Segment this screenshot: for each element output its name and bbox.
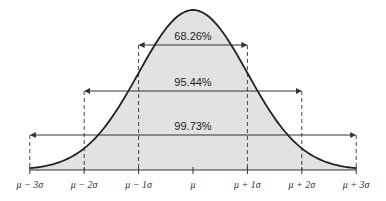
range-percent-label: 68.26%: [174, 30, 212, 42]
tick-label: μ − 1σ: [124, 179, 153, 190]
tick-label: μ + 1σ: [233, 179, 262, 190]
tick-label: μ − 3σ: [15, 179, 44, 190]
normal-distribution-chart: μ − 3σμ − 2σμ − 1σμμ + 1σμ + 2σμ + 3σ 68…: [0, 0, 386, 201]
range-percent-label: 99.73%: [174, 120, 212, 132]
tick-label: μ: [189, 179, 195, 190]
tick-label: μ + 3σ: [342, 179, 371, 190]
tick-label: μ − 2σ: [70, 179, 99, 190]
range-percent-label: 95.44%: [174, 76, 212, 88]
tick-label: μ + 2σ: [287, 179, 316, 190]
